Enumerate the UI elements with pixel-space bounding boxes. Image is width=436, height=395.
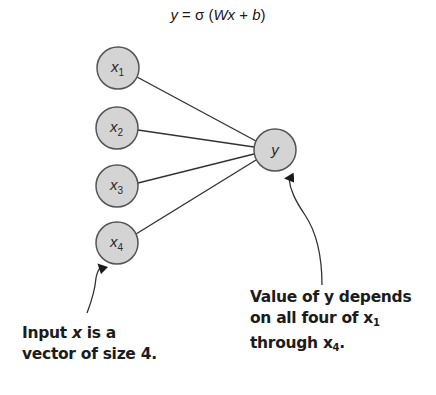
input-callout-text: Input x is a vector of size 4. bbox=[22, 323, 157, 365]
output-callout-line3: through x4. bbox=[250, 333, 411, 358]
output-node-y: y bbox=[254, 129, 296, 171]
output-callout-text: Value of y depends on all four of x1 thr… bbox=[250, 287, 411, 358]
input-node-x4: x4 bbox=[96, 222, 138, 264]
input-node-x1: x1 bbox=[97, 47, 139, 89]
input-callout-line1: Input x is a bbox=[22, 323, 157, 344]
output-callout-arrow bbox=[289, 178, 322, 285]
edge-x1-y bbox=[137, 77, 256, 141]
input-callout-line2: vector of size 4. bbox=[22, 344, 157, 365]
edge-x2-y bbox=[138, 130, 254, 147]
output-callout-line1: Value of y depends bbox=[250, 287, 411, 308]
input-callout-arrow bbox=[87, 267, 101, 313]
input-node-x3: x3 bbox=[96, 165, 138, 207]
input-node-x2: x2 bbox=[96, 107, 138, 149]
edge-x4-y bbox=[136, 160, 256, 234]
output-callout-line2: on all four of x1 bbox=[250, 308, 411, 333]
equation: y = σ (Wx + b) bbox=[169, 6, 265, 23]
edge-x3-y bbox=[138, 154, 254, 183]
edges bbox=[136, 77, 256, 234]
